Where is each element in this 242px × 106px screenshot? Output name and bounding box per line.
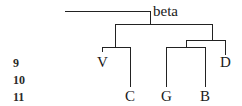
row-number-9: 9 [13,57,19,69]
row-number-11: 11 [13,91,24,103]
b-edge [205,47,206,87]
right-branch-drop [212,24,213,40]
node-g: G [161,89,172,104]
gb-drop [186,40,187,47]
root-drop-line [150,11,151,24]
row-number-10: 10 [13,74,25,86]
left-branch-drop [115,24,116,47]
d-edge [225,40,226,55]
first-split-line [115,24,213,25]
root-stem-line [65,11,151,12]
node-v: V [97,55,108,70]
g-edge [166,47,167,87]
root-label-beta: beta [153,4,178,19]
v-edge [102,47,103,52]
node-d: D [220,55,231,70]
c-edge [130,47,131,87]
node-c: C [125,89,135,104]
gbd-split-line [186,40,226,41]
gb-split-line [166,47,206,48]
vc-split-line [102,47,131,48]
node-b: B [200,89,210,104]
